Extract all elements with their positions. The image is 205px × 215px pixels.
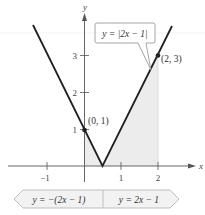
point-0-1 — [82, 128, 87, 133]
y-tick-label-2: 2 — [73, 88, 78, 98]
graph: y x −1 1 2 3 2 1 (0, 1) (2, 3) y = |2x −… — [0, 0, 205, 215]
point-label-2-3: (2, 3) — [161, 54, 182, 65]
x-tick-label-1: 1 — [119, 173, 124, 183]
y-axis-label: y — [82, 2, 87, 12]
x-axis-label: x — [198, 161, 203, 171]
banner-right-text: y = 2x − 1 — [118, 195, 159, 205]
banner-left-text: y = −(2x − 1) — [32, 195, 86, 206]
x-tick-label-2: 2 — [156, 173, 161, 183]
y-tick-label-1: 1 — [73, 125, 78, 135]
callout-text: y = |2x − 1| — [101, 29, 147, 39]
x-axis-arrow-icon — [188, 164, 196, 169]
x-tick-label-neg1: −1 — [40, 173, 50, 183]
point-2-3 — [156, 53, 161, 58]
y-tick-label-3: 3 — [73, 51, 78, 61]
point-label-0-1: (0, 1) — [88, 116, 109, 127]
y-axis-arrow-icon — [82, 13, 87, 21]
